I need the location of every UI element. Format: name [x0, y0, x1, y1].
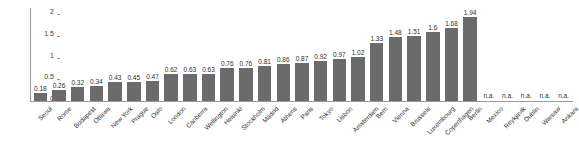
x-axis-label-slot: Vienna — [386, 102, 405, 151]
bar — [295, 63, 308, 101]
bar-chart: 00.511.52 0.180.260.320.340.430.450.470.… — [0, 0, 579, 151]
x-axis-label-slot: Warsaw — [536, 102, 555, 151]
bar-item: 0.76 — [218, 8, 237, 101]
bar — [351, 57, 364, 101]
bar-value-label: 0.63 — [202, 66, 215, 73]
bar-item: 1.48 — [386, 8, 405, 101]
bar-value-label: 0.26 — [53, 82, 66, 89]
bar — [314, 61, 327, 101]
bar-item: 1.68 — [442, 8, 461, 101]
bar — [445, 28, 458, 101]
x-axis-label-slot: Oslo — [143, 102, 162, 151]
x-axis-label-slot: Prague — [124, 102, 143, 151]
bar-item: 0.34 — [87, 8, 106, 101]
bar — [370, 43, 383, 101]
x-axis-label-slot: Berlin — [461, 102, 480, 151]
bar-value-label: 1.68 — [445, 20, 458, 27]
bar-item: 1.6 — [423, 8, 442, 101]
x-axis-label-slot: New York — [106, 102, 125, 151]
bar-item: 0.18 — [31, 8, 50, 101]
bar — [127, 82, 140, 101]
bar-value-label: 0.81 — [258, 58, 271, 65]
bar-value-label: 0.18 — [34, 85, 47, 92]
bar-series: 0.180.260.320.340.430.450.470.620.630.63… — [31, 8, 573, 101]
bar-value-label: 0.43 — [109, 74, 122, 81]
bar-item: n.a. — [480, 8, 499, 101]
bar-value-label: 1.48 — [389, 29, 402, 36]
bar-value-label: 0.86 — [277, 56, 290, 63]
bar — [407, 36, 420, 101]
bar-value-label: 0.63 — [184, 66, 197, 73]
bar-item: 0.92 — [311, 8, 330, 101]
bar-value-label: 0.92 — [314, 53, 327, 60]
bar-value-label: 0.97 — [333, 51, 346, 58]
x-axis-label-slot: Ankara — [554, 102, 573, 151]
bar-item: 0.87 — [293, 8, 312, 101]
bar — [164, 74, 177, 101]
bar-value-label: 0.47 — [146, 73, 159, 80]
x-axis-label-slot: Seoul — [31, 102, 50, 151]
bar-item: n.a. — [517, 8, 536, 101]
bar-item: 0.86 — [274, 8, 293, 101]
x-axis-label-slot: Luxembourg — [423, 102, 442, 151]
bar-item: 0.97 — [330, 8, 349, 101]
bar-item: 0.81 — [255, 8, 274, 101]
x-axis-label-slot: Athens — [274, 102, 293, 151]
bar-item: 1.51 — [405, 8, 424, 101]
bar-item: 0.32 — [68, 8, 87, 101]
bar — [426, 32, 439, 101]
x-axis-label: Ankara — [559, 105, 579, 125]
x-axis-label-slot: Budapest — [68, 102, 87, 151]
bar-value-na: n.a. — [521, 92, 532, 99]
bar-value-label: 1.02 — [352, 49, 365, 56]
bar-value-label: 1.94 — [464, 9, 477, 16]
bar-value-label: 1.6 — [428, 24, 437, 31]
x-axis-label-slot: Bern — [367, 102, 386, 151]
bar-item: 0.43 — [106, 8, 125, 101]
bar-item: 0.45 — [124, 8, 143, 101]
x-axis-label-slot: Rome — [50, 102, 69, 151]
bar — [202, 74, 215, 101]
bar — [108, 82, 121, 101]
bar-item: 0.63 — [181, 8, 200, 101]
bar-item: n.a. — [554, 8, 573, 101]
x-axis-label-slot: Paris — [293, 102, 312, 151]
x-axis-label-slot: Tokyo — [311, 102, 330, 151]
bar-item: 1.02 — [349, 8, 368, 101]
bar-value-label: 0.76 — [240, 60, 253, 67]
bar-value-na: n.a. — [483, 92, 494, 99]
bar-value-label: 0.45 — [127, 74, 140, 81]
x-axis-label-slot: Copenhagen — [442, 102, 461, 151]
x-axis-label-slot: Mexico — [480, 102, 499, 151]
bar-value-label: 0.87 — [296, 55, 309, 62]
bar — [52, 90, 65, 101]
bar-value-na: n.a. — [502, 92, 513, 99]
bar — [220, 68, 233, 101]
x-axis-label-slot: Wellington — [199, 102, 218, 151]
x-axis-label-slot: Reykjavik — [498, 102, 517, 151]
x-axis-label-slot: Stockholm — [237, 102, 256, 151]
x-axis-label-slot: Amsterdam — [349, 102, 368, 151]
bar-item: 1.94 — [461, 8, 480, 101]
bar-item: 1.33 — [367, 8, 386, 101]
bar-value-label: 0.32 — [71, 79, 84, 86]
x-axis-label-slot: London — [162, 102, 181, 151]
bar — [90, 86, 103, 101]
bar-item: 0.76 — [237, 8, 256, 101]
x-axis-label-slot: Brussels — [405, 102, 424, 151]
bar — [34, 93, 47, 101]
bar — [463, 17, 476, 101]
bar-value-na: n.a. — [539, 92, 550, 99]
bar — [258, 66, 271, 101]
bar — [333, 59, 346, 101]
x-axis-label-slot: Lisbon — [330, 102, 349, 151]
bar — [183, 74, 196, 101]
bar — [71, 87, 84, 101]
bar-item: 0.62 — [162, 8, 181, 101]
bar-item: 0.26 — [50, 8, 69, 101]
bar — [146, 81, 159, 101]
bar-item: n.a. — [536, 8, 555, 101]
bar — [277, 64, 290, 101]
x-axis-label-slot: Helsinki — [218, 102, 237, 151]
bar-value-label: 0.76 — [221, 60, 234, 67]
